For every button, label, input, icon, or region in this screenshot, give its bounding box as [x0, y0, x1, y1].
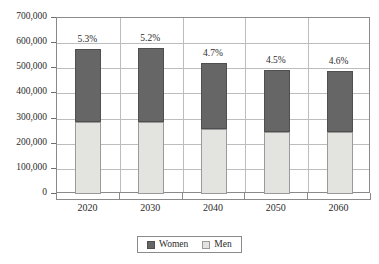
x-axis-tick-label: 2030: [128, 202, 172, 213]
x-axis-tick: [182, 193, 183, 200]
x-axis-line: [56, 199, 370, 200]
y-axis-tick: [51, 168, 56, 169]
category-separator: [183, 18, 184, 192]
stacked-bar[interactable]: [327, 71, 353, 194]
bar-percentage-label: 5.3%: [67, 34, 107, 44]
bar-segment-women[interactable]: [138, 48, 164, 121]
chart-legend: Women Men: [137, 236, 242, 253]
stacked-bar-chart: 0100,000200,000300,000400,000500,000600,…: [0, 0, 379, 264]
y-axis-tick: [51, 17, 56, 18]
y-axis-tick: [51, 67, 56, 68]
y-axis-tick-label: 0: [0, 188, 47, 198]
bar-percentage-label: 5.2%: [130, 33, 170, 43]
clipped-title-remnant: [24, 0, 264, 4]
x-axis-tick: [244, 193, 245, 200]
y-axis-tick-label: 700,000: [0, 12, 47, 22]
y-axis-tick-label: 600,000: [0, 37, 47, 47]
category-separator: [120, 18, 121, 192]
x-axis-tick: [56, 193, 57, 200]
x-axis-tick-label: 2040: [191, 202, 235, 213]
bar-segment-men[interactable]: [138, 122, 164, 194]
stacked-bar[interactable]: [75, 49, 101, 194]
x-axis-tick: [307, 193, 308, 200]
bar-segment-women[interactable]: [327, 71, 353, 132]
category-separator: [308, 18, 309, 192]
bar-segment-women[interactable]: [264, 70, 290, 132]
stacked-bar[interactable]: [264, 70, 290, 194]
x-axis-tick: [119, 193, 120, 200]
bar-segment-men[interactable]: [75, 122, 101, 194]
y-axis-tick: [51, 42, 56, 43]
legend-label-men: Men: [214, 240, 231, 250]
bar-segment-men[interactable]: [327, 132, 353, 194]
bar-segment-men[interactable]: [264, 132, 290, 194]
y-axis-tick-label: 500,000: [0, 62, 47, 72]
dark-gray-swatch-icon: [147, 241, 155, 249]
legend-item-women[interactable]: Women: [147, 240, 188, 250]
x-axis-tick-label: 2060: [317, 202, 361, 213]
bar-segment-men[interactable]: [201, 129, 227, 194]
bar-segment-women[interactable]: [75, 49, 101, 122]
x-axis-tick-label: 2050: [254, 202, 298, 213]
y-axis-tick-label: 100,000: [0, 163, 47, 173]
bar-percentage-label: 4.7%: [193, 48, 233, 58]
y-axis-tick-label: 400,000: [0, 87, 47, 97]
bar-percentage-label: 4.5%: [256, 55, 296, 65]
category-separator: [245, 18, 246, 192]
legend-label-women: Women: [159, 240, 188, 250]
y-axis-tick: [51, 118, 56, 119]
bar-percentage-label: 4.6%: [319, 56, 359, 66]
bar-segment-women[interactable]: [201, 63, 227, 129]
y-axis-tick: [51, 92, 56, 93]
stacked-bar[interactable]: [138, 48, 164, 194]
y-axis-tick-label: 200,000: [0, 138, 47, 148]
legend-item-men[interactable]: Men: [202, 240, 231, 250]
x-axis-tick: [370, 193, 371, 200]
y-axis-tick: [51, 143, 56, 144]
y-axis-tick-label: 300,000: [0, 113, 47, 123]
stacked-bar[interactable]: [201, 63, 227, 194]
x-axis-tick-label: 2020: [65, 202, 109, 213]
light-gray-swatch-icon: [202, 241, 210, 249]
